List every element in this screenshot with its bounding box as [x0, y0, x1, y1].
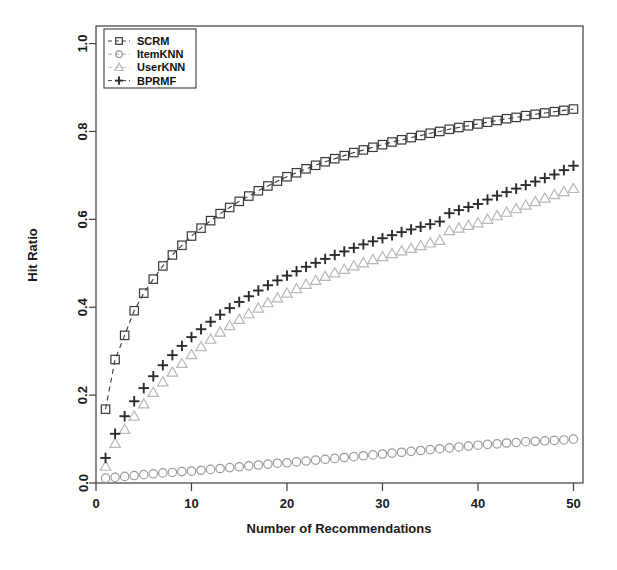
y-tick-label: 0.0	[76, 474, 91, 492]
y-tick-label: 0.2	[76, 386, 91, 404]
y-axis-title: Hit Ratio	[25, 228, 40, 282]
x-tick-label: 50	[566, 496, 580, 511]
legend-label: UserKNN	[137, 61, 185, 73]
legend-label: SCRM	[137, 35, 169, 47]
y-tick-label: 0.6	[76, 210, 91, 228]
x-axis-ticks: 01020304050	[92, 483, 580, 511]
chart-canvas: 0.00.20.40.60.81.0 01020304050 Number of…	[0, 0, 617, 570]
x-tick-label: 20	[280, 496, 294, 511]
y-axis-ticks: 0.00.20.40.60.81.0	[76, 35, 97, 493]
y-tick-label: 0.4	[76, 297, 91, 316]
chart-legend: SCRMItemKNNUserKNNBPRMF	[104, 29, 196, 88]
y-tick-label: 1.0	[76, 35, 91, 53]
x-tick-label: 40	[471, 496, 485, 511]
series-itemknn	[101, 435, 577, 483]
x-tick-label: 10	[184, 496, 198, 511]
x-axis-title: Number of Recommendations	[247, 521, 432, 536]
chart-figure: 0.00.20.40.60.81.0 01020304050 Number of…	[0, 0, 617, 570]
y-tick-label: 0.8	[76, 122, 91, 140]
legend-label: BPRMF	[137, 75, 176, 87]
series-bprmf	[100, 160, 578, 463]
x-tick-label: 30	[375, 496, 389, 511]
data-series-group	[100, 105, 578, 483]
series-userknn	[100, 183, 578, 470]
legend-label: ItemKNN	[137, 48, 184, 60]
x-tick-label: 0	[92, 496, 99, 511]
